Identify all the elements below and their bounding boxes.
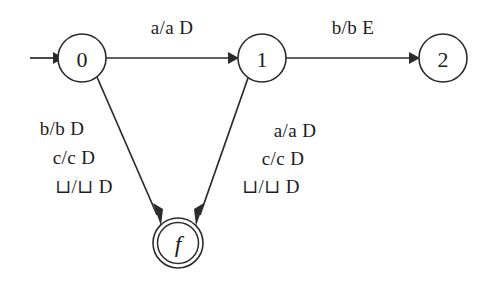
- transition-1-to-2[interactable]: [286, 52, 420, 64]
- edge-label-1-to-f-line-3: ⊔/⊔ D: [242, 176, 300, 197]
- edge-label-0-to-f-line-1: b/b D: [40, 118, 85, 139]
- edge-label-0-to-1: a/a D: [151, 17, 194, 38]
- transition-0-to-f[interactable]: [97, 77, 163, 226]
- automaton-diagram: 0 1 2 f a/a D b/b E b/b D c/c D ⊔/⊔ D: [0, 0, 490, 290]
- edge-label-1-to-f-line-1: a/a D: [274, 120, 317, 141]
- edge-label-0-to-f: b/b D c/c D ⊔/⊔ D: [40, 118, 113, 197]
- state-label-0: 0: [77, 47, 88, 72]
- transition-0-to-1[interactable]: [106, 52, 239, 64]
- state-node-f-accepting[interactable]: f: [153, 218, 203, 268]
- edge-label-0-to-f-line-2: c/c D: [53, 147, 96, 168]
- state-node-2[interactable]: 2: [419, 34, 467, 82]
- automaton-canvas: 0 1 2 f a/a D b/b E b/b D c/c D ⊔/⊔ D: [0, 0, 490, 290]
- edge-label-1-to-f-line-2: c/c D: [262, 148, 305, 169]
- edge-label-0-to-f-line-3: ⊔/⊔ D: [55, 176, 113, 197]
- state-node-1[interactable]: 1: [238, 34, 286, 82]
- transition-1-to-f[interactable]: [194, 78, 248, 226]
- edge-label-1-to-f: a/a D c/c D ⊔/⊔ D: [242, 120, 316, 197]
- state-label-2: 2: [438, 47, 449, 72]
- edge-label-1-to-2: b/b E: [332, 17, 375, 38]
- state-label-1: 1: [257, 47, 268, 72]
- state-node-0[interactable]: 0: [58, 34, 106, 82]
